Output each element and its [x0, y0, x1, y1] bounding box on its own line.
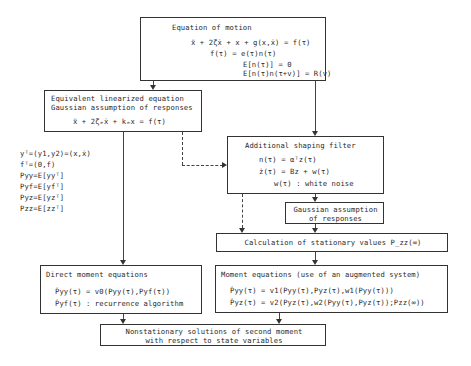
- shaping-filter-title: Additional shaping filter: [245, 142, 356, 149]
- definition: Pyf=E[yfᵀ]: [20, 183, 64, 190]
- equation-line: f(τ) = e(τ)n(τ): [210, 50, 276, 57]
- filter-line: n(τ) = αᵀz(τ): [259, 156, 317, 163]
- linearized-equation-box: Equivalent linearized equation Gaussian …: [44, 90, 202, 132]
- nonstationary-line2: with respect to state variables: [101, 337, 327, 344]
- connector-linearized-to-direct: [123, 132, 124, 261]
- equation-of-motion-box: Equation of motion ẍ + 2ζẋ + x + g(x,ẋ) …: [140, 17, 326, 81]
- moment-line: Ṗyy(τ) = v1(Pyy(τ),Pyz(τ),w1(Pyy(τ))): [230, 287, 394, 294]
- equation-line: E[n(τ)] = 0: [243, 61, 292, 68]
- definition: Pyy=E[yyᵀ]: [20, 172, 64, 179]
- stationary-label: Calculation of stationary values P_zz(∞): [217, 239, 449, 246]
- moment-line: Ṗyz(τ) = v2(Pyz(τ),w2(Pyy(τ),Pyz(τ));Pzz…: [230, 299, 425, 306]
- dashed-filter-to-stationary: [242, 194, 243, 228]
- linearized-equation: ẍ + 2ζₑẋ + kₑx = f(τ): [73, 118, 166, 125]
- filter-line: w(τ) : white noise: [274, 180, 354, 187]
- direct-moment-line: Ṗyf(τ) : recurrence algorithm: [55, 300, 183, 307]
- shaping-filter-box: Additional shaping filter n(τ) = αᵀz(τ) …: [227, 136, 384, 194]
- connector-motion-to-filter: [315, 81, 316, 132]
- direct-moment-line: Ṗyy(τ) = v0(Pyy(τ),Pyf(τ)): [55, 288, 170, 295]
- moment-equations-title: Moment equations (use of an augmented sy…: [221, 271, 420, 278]
- stationary-values-box: Calculation of stationary values P_zz(∞): [216, 233, 448, 252]
- equation-line: ẍ + 2ζẋ + x + g(x,ẋ) = f(τ): [191, 39, 311, 46]
- direct-moment-box: Direct moment equations Ṗyy(τ) = v0(Pyy(…: [40, 265, 202, 314]
- dashed-linearized-to-filter-h: [182, 165, 223, 166]
- direct-moment-title: Direct moment equations: [46, 271, 148, 278]
- filter-line: ż(τ) = Bz + w(τ): [259, 168, 330, 175]
- definition: yᵀ=(y1,y2)=(x,ẋ): [20, 150, 91, 157]
- linearized-title: Equivalent linearized equation: [51, 95, 184, 102]
- definition: Pyz=E[yzᵀ]: [20, 194, 64, 201]
- equation-line: E[n(τ)n(τ+v)] = R(v): [243, 70, 332, 77]
- nonstationary-line1: Nonstationary solutions of second moment: [101, 328, 327, 335]
- nonstationary-solutions-box: Nonstationary solutions of second moment…: [100, 324, 326, 346]
- definition: fᵀ=(0,f): [20, 161, 55, 168]
- moment-equations-box: Moment equations (use of an augmented sy…: [215, 265, 448, 313]
- equation-of-motion-title: Equation of motion: [172, 24, 252, 31]
- dashed-linearized-to-filter: [182, 132, 183, 165]
- gaussian-assumption-box: Gaussian assumption of responses: [285, 202, 384, 224]
- linearized-subtitle: Gaussian assumption of responses: [51, 104, 193, 111]
- definition: Pzz=E[zzᵀ]: [20, 205, 64, 212]
- gaussian-line2: of responses: [286, 215, 385, 222]
- gaussian-line1: Gaussian assumption: [286, 206, 385, 213]
